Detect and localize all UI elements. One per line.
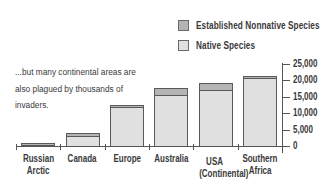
x-tick-label: SouthernAfrica	[238, 153, 282, 177]
x-tick	[282, 144, 283, 150]
bar-europe	[110, 105, 144, 146]
x-tick	[105, 144, 106, 150]
bar-segment-native	[67, 136, 99, 146]
bar-segment-native	[155, 95, 187, 146]
x-tick-label: USA(Continental)	[193, 156, 237, 180]
x-tick-label: Europe	[105, 153, 149, 165]
x-tick-label: Australia	[149, 153, 193, 165]
y-tick	[282, 113, 290, 114]
x-tick	[238, 144, 239, 150]
y-tick	[282, 97, 290, 98]
x-tick-label: RussianArctic	[16, 153, 60, 177]
bar-segment-native	[244, 78, 276, 146]
y-tick	[282, 64, 290, 65]
bar-australia	[154, 88, 188, 146]
x-tick-label: Canada	[60, 153, 104, 165]
legend-label-native: Native Species	[196, 40, 255, 51]
y-tick	[282, 80, 290, 81]
y-tick	[282, 130, 290, 131]
bar-southern-africa	[243, 76, 277, 146]
bar-segment-native	[111, 107, 143, 146]
legend-swatch-native	[178, 40, 189, 51]
y-tick-label: 15,000	[293, 91, 317, 102]
bar-russian-arctic	[21, 143, 55, 146]
x-tick	[149, 144, 150, 150]
bar-canada	[66, 133, 100, 146]
bar-segment-nonnative	[67, 134, 99, 137]
annotation-line: also plagued by thousands of	[15, 81, 165, 98]
x-tick	[193, 144, 194, 150]
x-axis-line	[16, 146, 290, 147]
y-tick-label: 20,000	[293, 74, 317, 85]
y-tick-label: 25,000	[293, 58, 317, 69]
y-tick	[282, 146, 290, 147]
y-tick-label: 10,000	[293, 107, 317, 118]
bar-segment-nonnative	[155, 89, 187, 96]
x-tick	[16, 144, 17, 150]
bar-segment-native	[200, 90, 232, 146]
x-tick	[60, 144, 61, 150]
legend-item-nonnative: Established Nonnative Species	[178, 20, 333, 31]
legend-swatch-nonnative	[178, 20, 189, 31]
y-axis-line	[282, 63, 283, 153]
y-tick-label: 5,000	[293, 124, 313, 135]
bar-segment-nonnative	[22, 144, 54, 146]
legend-label-nonnative: Established Nonnative Species	[196, 20, 320, 31]
bar-usa-continental	[199, 83, 233, 146]
bar-segment-nonnative	[200, 84, 232, 91]
y-tick-label: 0	[293, 140, 297, 151]
legend-item-native: Native Species	[178, 40, 268, 51]
bar-segment-nonnative	[244, 77, 276, 79]
annotation-line: ...but many continental areas are	[15, 64, 165, 81]
bar-segment-nonnative	[111, 106, 143, 108]
